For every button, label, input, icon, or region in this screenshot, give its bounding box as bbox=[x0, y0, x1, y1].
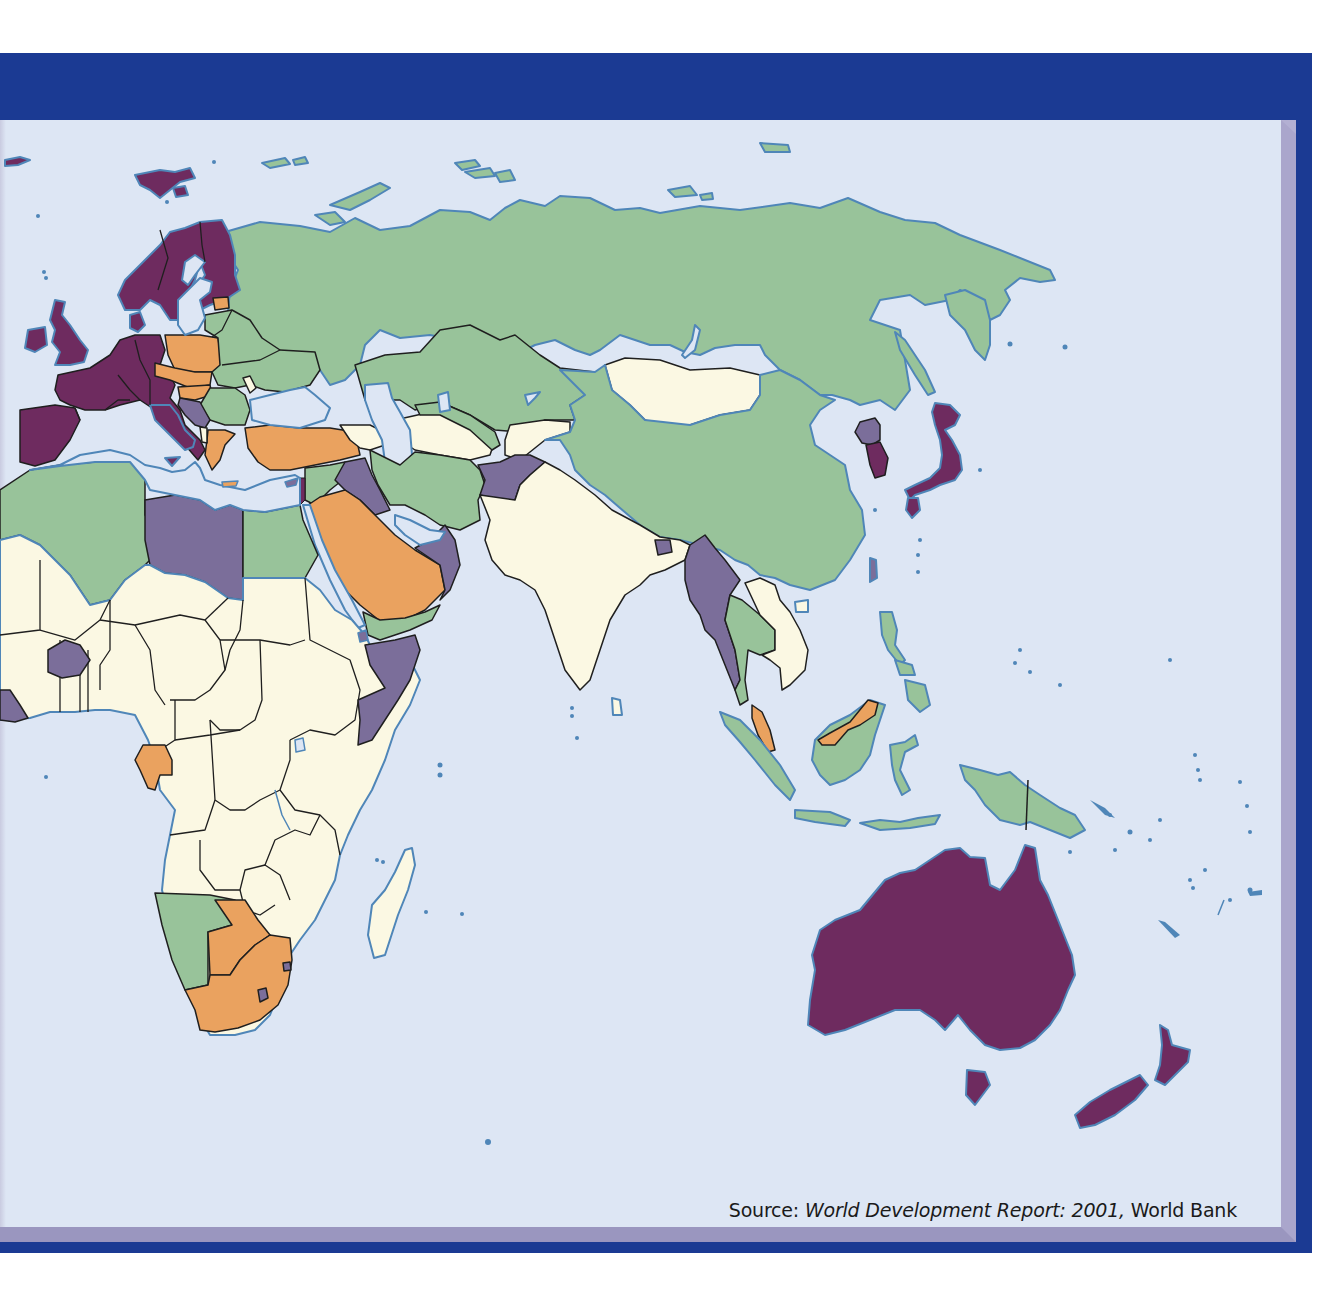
region-denmark bbox=[130, 312, 145, 332]
region-djibouti bbox=[358, 630, 368, 642]
bevel-bottom bbox=[0, 1227, 1296, 1242]
region-sulawesi bbox=[890, 735, 918, 795]
region-philippines bbox=[880, 612, 905, 665]
region-japan bbox=[905, 403, 962, 500]
region-nz-north bbox=[1155, 1025, 1190, 1085]
region-solomon-islands bbox=[1090, 800, 1115, 818]
region-iceland bbox=[5, 157, 30, 166]
region-estonia bbox=[213, 297, 229, 310]
bevel-right bbox=[1281, 120, 1296, 1242]
region-mindanao bbox=[905, 680, 930, 712]
source-org: World Bank bbox=[1131, 1199, 1237, 1221]
region-madagascar bbox=[368, 848, 415, 958]
region-swaziland bbox=[283, 962, 291, 971]
source-caption: Source: World Development Report: 2001, … bbox=[729, 1199, 1237, 1221]
region-svalbard-island bbox=[173, 186, 188, 197]
region-uk bbox=[50, 300, 88, 365]
source-title: World Development Report: 2001, bbox=[805, 1199, 1125, 1221]
region-tasmania bbox=[966, 1070, 990, 1105]
region-australia bbox=[808, 845, 1075, 1050]
region-bangladesh bbox=[655, 540, 672, 555]
eastern-hemisphere-map bbox=[0, 0, 1337, 1302]
region-iberia bbox=[20, 405, 80, 466]
aral-sea bbox=[438, 392, 450, 412]
region-ireland bbox=[25, 327, 47, 352]
region-java bbox=[795, 810, 850, 826]
source-label: Source: bbox=[729, 1199, 799, 1221]
region-poland bbox=[165, 335, 222, 372]
black-sea bbox=[250, 387, 330, 428]
region-crete bbox=[222, 481, 238, 487]
region-kamchatka bbox=[945, 290, 990, 360]
region-greece bbox=[205, 430, 235, 470]
region-new-caledonia bbox=[1158, 920, 1180, 938]
region-iran bbox=[370, 450, 485, 530]
region-taiwan bbox=[870, 558, 877, 582]
region-new-guinea bbox=[960, 765, 1085, 838]
region-kyushu bbox=[906, 498, 920, 518]
region-tonga bbox=[1218, 900, 1224, 915]
region-visayas bbox=[895, 660, 915, 675]
region-lesser-sunda bbox=[860, 815, 940, 830]
region-nz-south bbox=[1075, 1075, 1148, 1128]
region-hainan bbox=[795, 600, 808, 612]
region-sri-lanka bbox=[612, 698, 622, 715]
region-sicily bbox=[165, 457, 180, 466]
region-north-korea bbox=[855, 418, 880, 445]
lake-victoria bbox=[295, 738, 305, 752]
region-south-korea bbox=[866, 442, 888, 478]
